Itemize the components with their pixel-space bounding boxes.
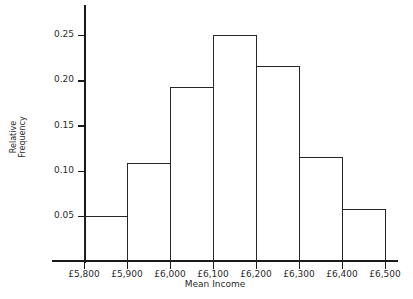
x-tick-label-4: £6,200 [233, 270, 279, 279]
x-tick-label-3: £6,100 [190, 270, 236, 279]
y-axis-label-line-1: Relative [9, 102, 18, 172]
y-tick-mark-2 [78, 125, 85, 127]
y-tick-mark-3 [78, 80, 85, 82]
y-tick-label-2: 0.15 [40, 121, 74, 130]
y-tick-label-4: 0.25 [40, 30, 74, 39]
x-tick-mark-0 [84, 262, 86, 269]
x-tick-label-5: £6,300 [276, 270, 322, 279]
histogram-bar-6 [342, 209, 386, 262]
y-tick-label-3: 0.20 [40, 75, 74, 84]
y-axis-label: Relative Frequency [9, 102, 27, 172]
histogram-bar-4 [256, 66, 300, 262]
x-tick-label-0: £5,800 [61, 270, 107, 279]
x-tick-mark-7 [385, 262, 387, 269]
histogram-bar-3 [213, 35, 257, 261]
x-tick-label-6: £6,400 [319, 270, 365, 279]
y-tick-label-1: 0.10 [40, 166, 74, 175]
histogram-bar-0 [84, 216, 128, 261]
histogram-bar-5 [299, 157, 343, 261]
x-tick-mark-2 [170, 262, 172, 269]
x-tick-mark-4 [256, 262, 258, 269]
histogram-chart: 0.05 0.10 0.15 0.20 0.25 £5,800 £5,900 £… [0, 0, 413, 299]
x-tick-mark-3 [213, 262, 215, 269]
x-tick-label-1: £5,900 [104, 270, 150, 279]
x-tick-mark-6 [342, 262, 344, 269]
x-axis-label: Mean Income [130, 279, 300, 289]
histogram-bar-1 [127, 163, 171, 261]
y-tick-mark-4 [78, 35, 85, 37]
y-axis-label-line-2: Frequency [18, 102, 27, 172]
x-tick-label-2: £6,000 [147, 270, 193, 279]
x-tick-mark-5 [299, 262, 301, 269]
histogram-bar-2 [170, 87, 214, 261]
x-tick-label-7: £6,500 [362, 270, 408, 279]
y-tick-label-0: 0.05 [40, 211, 74, 220]
x-tick-mark-1 [127, 262, 129, 269]
y-tick-mark-1 [78, 171, 85, 173]
